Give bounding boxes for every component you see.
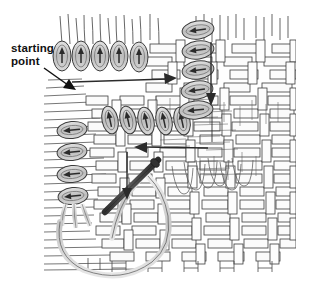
starting-point-label-line2: point — [11, 55, 40, 67]
diagram-canvas: startingpoint — [0, 0, 313, 293]
middle-stitch-row — [99, 105, 192, 137]
top-stitch-row — [53, 41, 148, 72]
starting-point-label: startingpoint — [11, 42, 54, 68]
starting-point-label-line1: starting — [11, 42, 54, 54]
left-stitch-column — [56, 120, 89, 206]
top-warp-stems — [60, 14, 288, 44]
right-stitch-column — [178, 19, 215, 121]
